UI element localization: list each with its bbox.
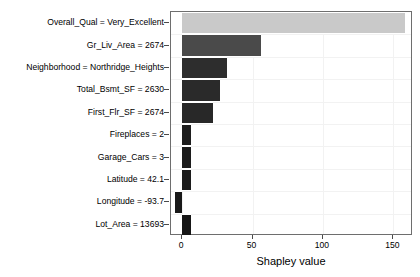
y-axis-labels: Overall_Qual = Very_ExcellentGr_Liv_Area… (0, 0, 164, 277)
bar (182, 57, 227, 79)
y-axis-tick (164, 224, 169, 225)
y-axis-label: Fireplaces = 2 (110, 129, 164, 139)
y-axis-label: Overall_Qual = Very_Excellent (47, 17, 164, 27)
y-axis-label: Total_Bsmt_SF = 2630 (77, 84, 164, 94)
bar (182, 12, 404, 34)
x-axis-tick-label: 0 (179, 240, 184, 250)
gridline-horizontal-5 (171, 124, 411, 125)
x-axis-tick-label: 100 (315, 240, 329, 250)
y-axis-tick (164, 67, 169, 68)
gridline-vertical-3 (393, 12, 394, 234)
bar (182, 102, 213, 124)
y-axis-tick (164, 89, 169, 90)
bar (182, 34, 261, 56)
y-axis-tick (164, 179, 169, 180)
y-axis-label: Neighborhood = Northridge_Heights (26, 62, 164, 72)
bar (175, 191, 182, 213)
x-axis-title: Shapley value (170, 255, 412, 267)
y-axis-tick (164, 157, 169, 158)
y-axis-tick (164, 134, 169, 135)
gridline-horizontal-8 (171, 191, 411, 192)
y-axis-label: Garage_Cars = 3 (98, 152, 164, 162)
bar (182, 124, 190, 146)
bar (182, 79, 220, 101)
gridline-vertical-2 (323, 12, 324, 234)
y-axis-tick (164, 112, 169, 113)
y-axis-tick (164, 201, 169, 202)
x-axis-tick (392, 235, 393, 239)
y-axis-tick (164, 22, 169, 23)
y-axis-label: First_Flr_SF = 2674 (88, 107, 164, 117)
x-axis-tick (252, 235, 253, 239)
gridline-horizontal-7 (171, 169, 411, 170)
y-axis-tick (164, 45, 169, 46)
x-axis-tick (322, 235, 323, 239)
plot-area (170, 11, 412, 235)
shapley-bar-chart: Overall_Qual = Very_ExcellentGr_Liv_Area… (0, 0, 420, 277)
bar (182, 169, 190, 191)
x-axis-tick (181, 235, 182, 239)
gridline-horizontal-9 (171, 214, 411, 215)
y-axis-label: Longitude = -93.7 (97, 196, 164, 206)
bar (182, 214, 190, 236)
gridline-horizontal-6 (171, 146, 411, 147)
x-axis-tick-label: 150 (385, 240, 399, 250)
y-axis-label: Latitude = 42.1 (107, 174, 164, 184)
y-axis-label: Gr_Liv_Area = 2674 (87, 40, 164, 50)
x-axis-tick-label: 50 (247, 240, 257, 250)
bar (182, 146, 190, 168)
y-axis-label: Lot_Area = 13693 (95, 219, 164, 229)
